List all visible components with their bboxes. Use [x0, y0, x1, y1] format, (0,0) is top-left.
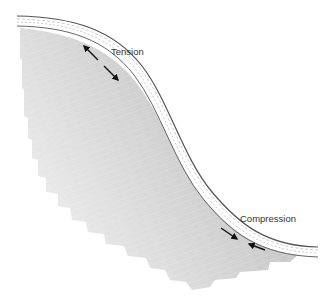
tension-label: Tension: [111, 46, 144, 57]
compression-label: Compression: [240, 213, 296, 224]
bending-diagram: [0, 0, 336, 298]
rock-mass: [20, 28, 300, 290]
